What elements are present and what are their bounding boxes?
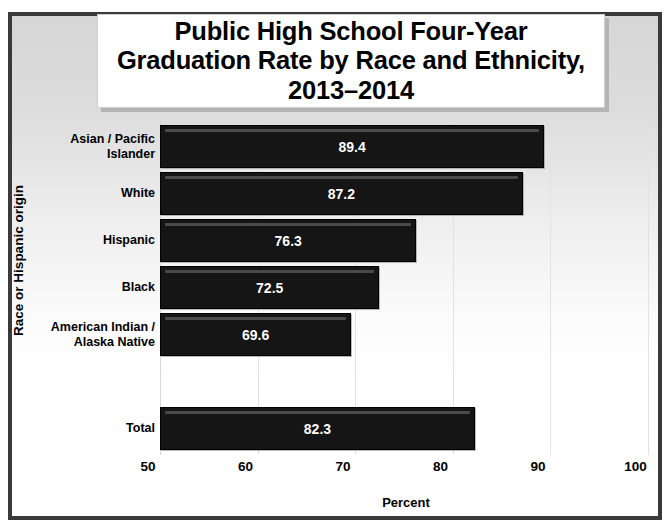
x-tick-label: 80 [411, 459, 471, 474]
category-label: Total [0, 421, 155, 436]
category-label: Asian / Pacific Islander [0, 132, 155, 162]
bar: 76.3 [160, 219, 416, 262]
x-tick-label: 50 [118, 459, 178, 474]
bar-value-label: 87.2 [161, 173, 522, 216]
x-tick-label: 90 [508, 459, 568, 474]
bar-value-label: 76.3 [161, 220, 415, 263]
category-label: Black [0, 280, 155, 295]
bar: 89.4 [160, 125, 544, 168]
bar-value-label: 69.6 [161, 314, 350, 357]
bar: 69.6 [160, 313, 351, 356]
x-axis-tick-labels: 5060708090100 [0, 459, 670, 481]
bar: 87.2 [160, 172, 523, 215]
bar: 72.5 [160, 266, 379, 309]
plot-area: 89.487.276.372.569.682.3 [160, 120, 650, 455]
x-tick-label: 70 [313, 459, 373, 474]
category-label: American Indian / Alaska Native [0, 320, 155, 350]
chart-screenshot: Public High School Four-Year Graduation … [0, 0, 670, 531]
bar-value-label: 72.5 [161, 267, 378, 310]
x-tick-label: 60 [216, 459, 276, 474]
bar-value-label: 82.3 [161, 408, 474, 451]
bar: 82.3 [160, 407, 475, 450]
category-label: White [0, 186, 155, 201]
chart-title-box: Public High School Four-Year Graduation … [97, 14, 605, 108]
x-tick-label: 100 [606, 459, 666, 474]
figure-frame: Public High School Four-Year Graduation … [8, 12, 662, 520]
x-axis-title: Percent [160, 495, 652, 510]
gridline [550, 120, 551, 455]
category-axis-labels: Asian / Pacific IslanderWhiteHispanicBla… [0, 120, 155, 455]
chart-title: Public High School Four-Year Graduation … [111, 17, 591, 106]
gridline [453, 120, 454, 455]
bar-value-label: 89.4 [161, 126, 543, 169]
category-label: Hispanic [0, 233, 155, 248]
gridline [648, 120, 649, 455]
